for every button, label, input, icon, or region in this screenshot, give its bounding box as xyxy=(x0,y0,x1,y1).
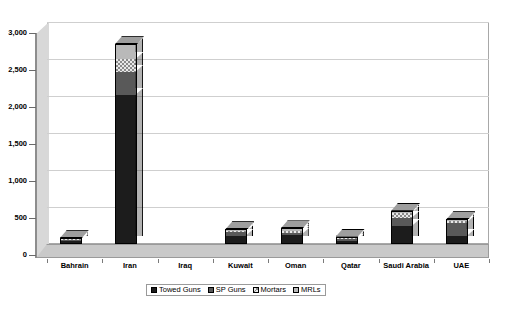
bar-iran[interactable] xyxy=(115,44,137,244)
bar-uae[interactable] xyxy=(446,219,468,244)
bar-segment-towed-guns-saudi-arabia[interactable] xyxy=(391,226,413,244)
legend-swatch-icon xyxy=(253,287,259,293)
legend-item-mrls[interactable]: MRLs xyxy=(293,286,321,294)
bar-segment-towed-guns-qatar[interactable] xyxy=(336,241,358,244)
bar-kuwait[interactable] xyxy=(225,229,247,244)
bar-bahrain[interactable] xyxy=(60,238,82,244)
bar-saudi-arabia[interactable] xyxy=(391,211,413,244)
bar-top-cap xyxy=(60,230,89,238)
legend-label: Towed Guns xyxy=(159,286,201,294)
stacked-column-chart: 05001,0001,5002,0002,5003,000 BahrainIra… xyxy=(0,0,508,309)
x-tick-2 xyxy=(158,259,159,263)
bar-segment-towed-guns-kuwait[interactable] xyxy=(225,236,247,244)
plot-area: 05001,0001,5002,0002,5003,000 BahrainIra… xyxy=(0,0,508,309)
bar-top-cap xyxy=(225,221,254,229)
x-tick-6 xyxy=(379,259,380,263)
x-tick-end xyxy=(489,259,490,263)
chart-legend: Towed GunsSP GunsMortarsMRLs xyxy=(146,284,326,296)
legend-swatch-icon xyxy=(151,287,157,293)
bar-segment-towed-guns-uae[interactable] xyxy=(446,236,468,244)
bar-side-face xyxy=(135,88,143,236)
legend-label: MRLs xyxy=(301,286,321,294)
legend-swatch-icon xyxy=(293,287,299,293)
bar-segment-sp-guns-saudi-arabia[interactable] xyxy=(391,218,413,226)
bar-segment-towed-guns-iran[interactable] xyxy=(115,95,137,244)
bar-segment-towed-guns-bahrain[interactable] xyxy=(60,241,82,244)
x-tick-3 xyxy=(213,259,214,263)
bar-top-cap xyxy=(336,229,365,237)
legend-label: SP Guns xyxy=(216,286,246,294)
bar-segment-towed-guns-oman[interactable] xyxy=(281,235,303,244)
legend-item-mortars[interactable]: Mortars xyxy=(253,286,286,294)
x-tick-0 xyxy=(47,259,48,263)
bar-top-cap xyxy=(281,220,310,228)
legend-item-sp-guns[interactable]: SP Guns xyxy=(208,286,246,294)
bar-oman[interactable] xyxy=(281,228,303,244)
legend-label: Mortars xyxy=(261,286,286,294)
bar-top-cap xyxy=(446,211,475,219)
legend-item-towed-guns[interactable]: Towed Guns xyxy=(151,286,201,294)
x-tick-7 xyxy=(434,259,435,263)
x-tick-5 xyxy=(323,259,324,263)
x-tick-4 xyxy=(268,259,269,263)
bar-top-cap xyxy=(391,203,420,211)
x-axis-label-uae: UAE xyxy=(421,262,501,270)
x-tick-1 xyxy=(102,259,103,263)
bar-segment-sp-guns-iran[interactable] xyxy=(115,72,137,95)
legend-swatch-icon xyxy=(208,287,214,293)
bar-segment-sp-guns-uae[interactable] xyxy=(446,223,468,236)
bar-segment-mortars-iran[interactable] xyxy=(115,59,137,72)
x-axis: BahrainIranIraqKuwaitOmanQatarSaudi Arab… xyxy=(0,259,508,275)
bar-segment-mrls-iran[interactable] xyxy=(115,44,137,59)
bar-top-cap xyxy=(115,36,144,44)
bar-qatar[interactable] xyxy=(336,237,358,245)
